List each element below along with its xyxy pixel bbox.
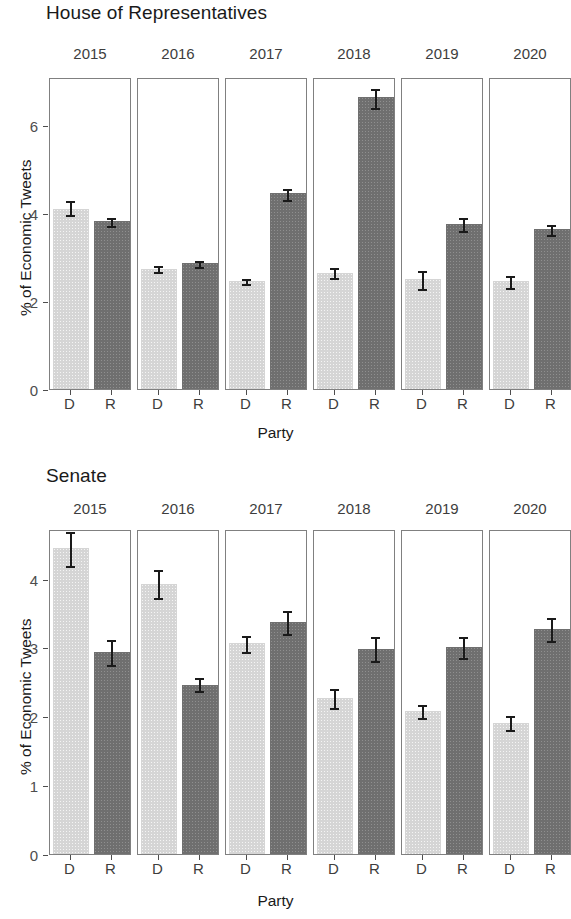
x-tick-label-D: D: [328, 395, 339, 412]
error-bar-2018-D: [329, 268, 341, 280]
error-bar-cap-bottom: [66, 215, 75, 217]
facet-strip-label-2019: 2019: [401, 45, 483, 62]
bar-2015-R: [94, 221, 130, 389]
error-bar-stem: [287, 611, 289, 636]
x-tick-label-R: R: [369, 860, 380, 877]
error-bar-cap-bottom: [154, 272, 163, 274]
bar-2018-D: [317, 698, 353, 854]
error-bar-2015-R: [106, 218, 118, 227]
x-tick-label-D: D: [328, 860, 339, 877]
bar-2020-R: [534, 229, 570, 389]
error-bar-cap-bottom: [330, 708, 339, 710]
error-bar-stem: [334, 689, 336, 710]
error-bar-cap-bottom: [418, 718, 427, 720]
facet-panel-2015: [49, 530, 131, 855]
facet-panel-2020: [489, 78, 571, 390]
facet-strip-label-2017: 2017: [225, 500, 307, 517]
facet-panel-2016: [137, 530, 219, 855]
facet-strip-label-2020: 2020: [489, 500, 571, 517]
error-bar-cap-bottom: [371, 108, 380, 110]
x-tick-label-D: D: [240, 860, 251, 877]
error-bar-2017-D: [241, 279, 253, 286]
bar-2017-D: [229, 281, 265, 389]
panel-title-senate: Senate: [46, 465, 107, 487]
y-tick-label: 2: [14, 294, 38, 311]
error-bar-cap-bottom: [66, 566, 75, 568]
facet-panel-2018: [313, 530, 395, 855]
error-bar-cap-bottom: [283, 200, 292, 202]
bar-2017-R: [270, 193, 306, 389]
error-bar-2020-D: [505, 716, 517, 732]
error-bar-2019-R: [458, 218, 470, 233]
x-tick-label-D: D: [152, 395, 163, 412]
error-bar-2019-D: [417, 705, 429, 720]
facet-strip-label-2018: 2018: [313, 45, 395, 62]
error-bar-2017-D: [241, 636, 253, 654]
error-bar-stem: [375, 637, 377, 663]
y-tick-mark: [43, 302, 48, 303]
bar-2017-R: [270, 622, 306, 854]
y-tick-label: 4: [14, 206, 38, 223]
x-tick-label-D: D: [416, 395, 427, 412]
y-tick-mark: [43, 390, 48, 391]
panel-title-house: House of Representatives: [46, 2, 267, 24]
bar-2015-D: [53, 548, 89, 854]
error-bar-stem: [70, 532, 72, 568]
y-tick-mark: [43, 786, 48, 787]
error-bar-cap-bottom: [459, 658, 468, 660]
error-bar-2018-D: [329, 689, 341, 710]
error-bar-cap-bottom: [195, 267, 204, 269]
error-bar-cap-bottom: [371, 661, 380, 663]
y-tick-label: 4: [14, 571, 38, 588]
y-tick-mark: [43, 855, 48, 856]
error-bar-stem: [158, 570, 160, 600]
x-tick-label-R: R: [193, 860, 204, 877]
error-bar-cap-bottom: [418, 289, 427, 291]
x-tick-label-R: R: [545, 860, 556, 877]
x-tick-label-D: D: [152, 860, 163, 877]
bar-2018-R: [358, 649, 394, 854]
error-bar-cap-bottom: [506, 288, 515, 290]
error-bar-2019-R: [458, 637, 470, 660]
facet-strip-label-2017: 2017: [225, 45, 307, 62]
x-tick-label-R: R: [193, 395, 204, 412]
bar-2016-R: [182, 685, 218, 854]
bar-2019-D: [405, 279, 441, 389]
error-bar-cap-bottom: [547, 641, 556, 643]
error-bar-stem: [463, 637, 465, 660]
bar-2019-D: [405, 711, 441, 854]
facet-strip-label-2020: 2020: [489, 45, 571, 62]
y-tick-label: 1: [14, 778, 38, 795]
facet-strip-label-2015: 2015: [49, 500, 131, 517]
x-tick-label-R: R: [105, 860, 116, 877]
bar-2019-R: [446, 224, 482, 389]
error-bar-cap-bottom: [154, 598, 163, 600]
facet-panel-2019: [401, 530, 483, 855]
x-tick-label-R: R: [457, 860, 468, 877]
error-bar-2015-D: [65, 532, 77, 568]
facet-panel-2020: [489, 530, 571, 855]
error-bar-2016-D: [153, 266, 165, 274]
facet-panel-2017: [225, 530, 307, 855]
error-bar-2020-D: [505, 276, 517, 290]
error-bar-2019-D: [417, 271, 429, 290]
facet-strip-label-2015: 2015: [49, 45, 131, 62]
facet-strip-label-2019: 2019: [401, 500, 483, 517]
error-bar-cap-bottom: [330, 278, 339, 280]
error-bar-2020-R: [546, 618, 558, 643]
panel-house: House of Representatives % of Economic T…: [0, 0, 551, 455]
facet-panel-2016: [137, 78, 219, 390]
error-bar-cap-bottom: [242, 652, 251, 654]
facet-strip-label-2018: 2018: [313, 500, 395, 517]
error-bar-cap-bottom: [195, 691, 204, 693]
error-bar-2017-R: [282, 611, 294, 636]
y-axis-title: % of Economic Tweets: [17, 159, 35, 316]
error-bar-2020-R: [546, 225, 558, 237]
error-bar-stem: [375, 89, 377, 110]
facet-strip-label-2016: 2016: [137, 45, 219, 62]
y-tick-mark: [43, 717, 48, 718]
x-tick-label-D: D: [64, 860, 75, 877]
bar-2020-D: [493, 723, 529, 854]
x-axis-title: Party: [0, 892, 551, 910]
